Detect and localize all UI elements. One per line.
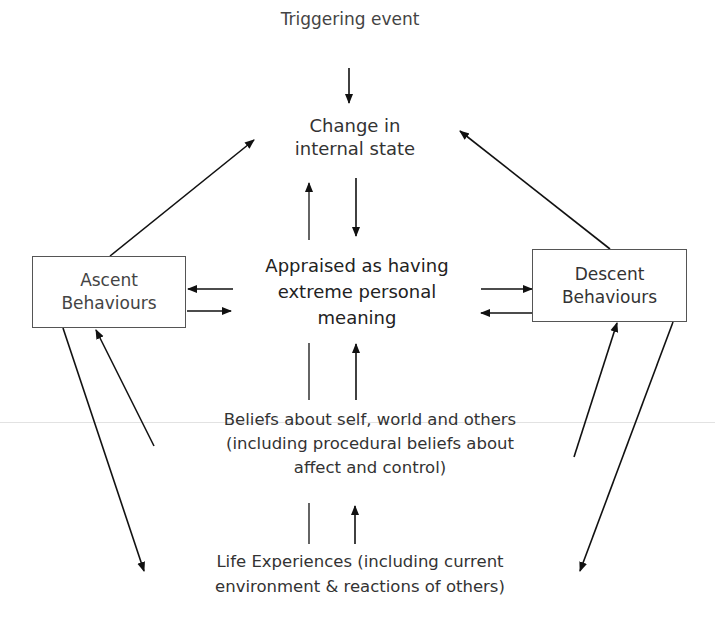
node-beliefs-line2: (including procedural beliefs about (170, 432, 570, 456)
node-beliefs-line3: affect and control) (170, 456, 570, 480)
node-descent-behaviours: Descent Behaviours (532, 249, 687, 322)
node-descent-line2: Behaviours (562, 286, 657, 309)
node-ascent-behaviours: Ascent Behaviours (32, 256, 186, 328)
node-appraised-line1: Appraised as having (232, 253, 482, 279)
node-appraised: Appraised as having extreme personal mea… (232, 253, 482, 331)
node-beliefs-line1: Beliefs about self, world and others (170, 408, 570, 432)
node-change-line2: internal state (250, 137, 460, 160)
node-change-line1: Change in (250, 114, 460, 137)
node-triggering-event-label: Triggering event (281, 9, 420, 29)
arrow-beliefs-to-ascent (96, 330, 154, 446)
node-life-line2: environment & reactions of others) (170, 575, 550, 600)
node-descent-line1: Descent (562, 263, 657, 286)
node-appraised-line2: extreme personal (232, 279, 482, 305)
arrow-beliefs-to-descent (574, 323, 617, 457)
node-triggering-event: Triggering event (250, 8, 450, 30)
node-ascent-line2: Behaviours (61, 292, 156, 315)
node-appraised-line3: meaning (232, 305, 482, 331)
arrow-descent-to-life (580, 322, 673, 571)
node-life-experiences: Life Experiences (including current envi… (170, 550, 550, 600)
node-life-line1: Life Experiences (including current (170, 550, 550, 575)
arrow-ascent-to-life (63, 328, 144, 571)
arrow-ascent-to-change (110, 140, 254, 256)
node-beliefs: Beliefs about self, world and others (in… (170, 408, 570, 480)
arrow-descent-to-change (460, 131, 610, 249)
node-ascent-line1: Ascent (61, 269, 156, 292)
node-change-internal-state: Change in internal state (250, 114, 460, 161)
